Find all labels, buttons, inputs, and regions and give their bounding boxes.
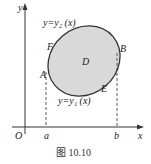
x-axis-arrow [137,125,144,130]
upper-curve-label: y=y₂ (x) [43,18,76,28]
x-axis-label: x [138,131,142,141]
y-axis-arrow [23,3,28,10]
tick-b-label: b [114,131,119,141]
lower-curve-label: y=y₁ (x) [58,96,91,106]
point-a-label: A [40,70,46,80]
region-label: D [82,57,89,67]
tick-a-label: a [44,131,49,141]
y-axis-label: y [18,3,22,13]
point-f-label: F [47,42,53,52]
point-e-label: E [101,84,107,94]
figure-caption: 图 10.10 [56,148,91,158]
origin-label: O [15,131,22,141]
point-b-label: B [120,44,126,54]
